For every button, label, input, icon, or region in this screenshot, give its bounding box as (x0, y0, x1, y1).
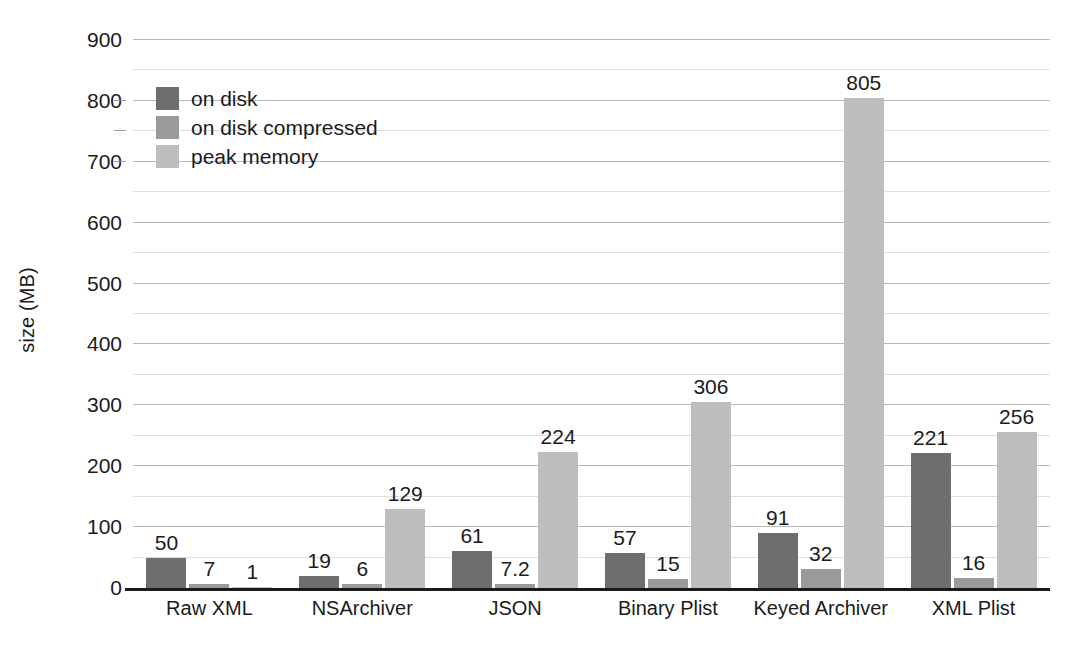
legend-label: on disk (191, 88, 258, 109)
bar-value-label: 129 (365, 483, 445, 504)
y-axis-tick-label: 500 (36, 273, 122, 294)
bar-group: 5715306 (605, 40, 731, 588)
bar-value-label: 256 (977, 406, 1057, 427)
legend-item: on disk compressed (156, 113, 378, 142)
x-axis-tick-label: JSON (439, 597, 592, 619)
legend: on diskon disk compressedpeak memory (156, 84, 378, 171)
bar-value-label: 805 (824, 72, 904, 93)
bar (801, 569, 841, 588)
y-axis-tick-label: 800 (36, 90, 122, 111)
bar (997, 432, 1037, 588)
bar-chart: size (MB) 9008007006005004003002001000 5… (0, 0, 1081, 657)
bar-value-label: 61 (432, 525, 512, 546)
y-axis-tick-label: 200 (36, 455, 122, 476)
bar-group: 9132805 (758, 40, 884, 588)
legend-swatch (156, 116, 179, 139)
legend-label: peak memory (191, 146, 318, 167)
y-axis-tick-mark (114, 161, 126, 162)
y-axis-tick-mark (114, 130, 126, 131)
y-axis-tick-label: 0 (36, 577, 122, 598)
y-axis-tick-label: 300 (36, 394, 122, 415)
legend-swatch (156, 145, 179, 168)
legend-item: on disk (156, 84, 378, 113)
bar-group: 22116256 (911, 40, 1037, 588)
y-axis-tick-label: 100 (36, 516, 122, 537)
y-axis-tick-labels: 9008007006005004003002001000 (36, 0, 122, 657)
bar (954, 578, 994, 588)
y-axis-tick-mark (114, 100, 126, 101)
legend-swatch (156, 87, 179, 110)
x-axis-tick-label: NSArchiver (286, 597, 439, 619)
bar-value-label: 50 (126, 532, 206, 553)
x-axis-tick-label: Binary Plist (592, 597, 745, 619)
bar-value-label: 91 (738, 507, 818, 528)
bar (691, 402, 731, 588)
y-axis-tick-label: 400 (36, 333, 122, 354)
bar-value-label: 306 (671, 376, 751, 397)
bar-group: 617.2224 (452, 40, 578, 588)
x-axis-baseline (125, 588, 1050, 591)
bar-value-label: 221 (891, 427, 971, 448)
bar (385, 509, 425, 588)
bar (648, 579, 688, 588)
x-axis-tick-label: Raw XML (133, 597, 286, 619)
bar-value-label: 57 (585, 527, 665, 548)
x-axis-tick-label: Keyed Archiver (744, 597, 897, 619)
x-axis-tick-label: XML Plist (897, 597, 1050, 619)
legend-label: on disk compressed (191, 117, 378, 138)
y-axis-tick-label: 700 (36, 151, 122, 172)
y-axis-tick-label: 600 (36, 212, 122, 233)
legend-item: peak memory (156, 142, 378, 171)
bar (844, 98, 884, 588)
bar-value-label: 224 (518, 426, 598, 447)
y-axis-tick-label: 900 (36, 29, 122, 50)
bar (538, 452, 578, 588)
